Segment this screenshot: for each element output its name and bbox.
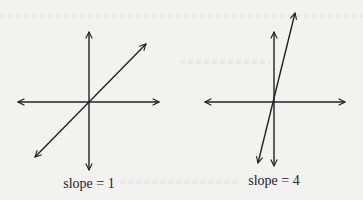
graph-slope-1: [18, 32, 159, 170]
caption-slope-1: slope = 1: [63, 176, 114, 192]
caption-slope-4: slope = 4: [248, 173, 299, 189]
slope-diagram: [0, 0, 363, 200]
graph-slope-4: [205, 13, 345, 166]
slope-line-arrow: [35, 44, 146, 157]
slope-line-arrow: [258, 13, 295, 163]
